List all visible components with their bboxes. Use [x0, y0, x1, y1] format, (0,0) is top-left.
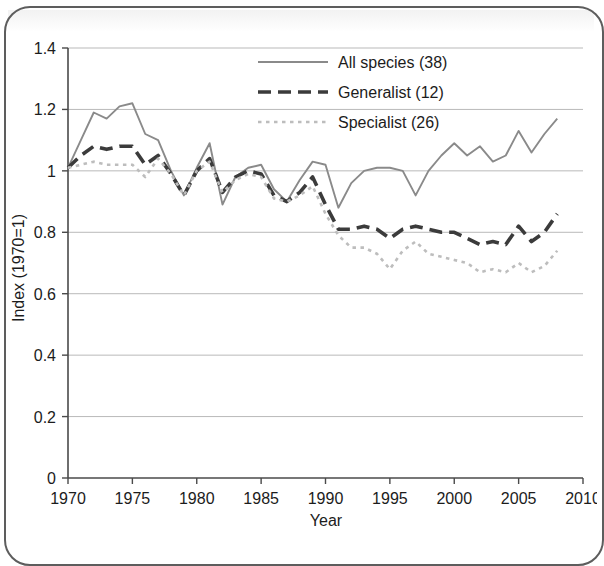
x-tick-label-1990: 1990 [308, 490, 344, 507]
x-tick-label-2000: 2000 [436, 490, 472, 507]
axes-group [62, 48, 583, 484]
x-tick-label-1980: 1980 [179, 490, 215, 507]
x-tick-label-1995: 1995 [372, 490, 408, 507]
y-tick-label-0_2: 0.2 [34, 409, 56, 426]
gridlines-group [68, 48, 583, 417]
y-tick-label-1: 1 [47, 163, 56, 180]
y-axis-title: Index (1970=1) [10, 214, 27, 322]
x-tick-label-2010: 2010 [565, 490, 597, 507]
series-group [68, 103, 557, 272]
y-tick-label-1_2: 1.2 [34, 101, 56, 118]
legend-group: All species (38)Generalist (12)Specialis… [258, 54, 447, 131]
legend-label-2: Specialist (26) [338, 114, 439, 131]
y-tick-label-0_8: 0.8 [34, 224, 56, 241]
legend-label-1: Generalist (12) [338, 84, 444, 101]
x-tick-label-1975: 1975 [115, 490, 151, 507]
y-tick-label-0_6: 0.6 [34, 286, 56, 303]
y-tick-labels-group: 00.20.40.60.811.21.4 [34, 40, 56, 487]
x-axis-title: Year [310, 512, 343, 529]
x-tick-labels-group: 197019751980198519901995200020052010 [50, 490, 597, 507]
y-tick-label-0: 0 [47, 470, 56, 487]
x-tick-label-1970: 1970 [50, 490, 86, 507]
y-tick-label-1_4: 1.4 [34, 40, 56, 57]
series-line-0 [68, 103, 557, 207]
y-tick-label-0_4: 0.4 [34, 347, 56, 364]
x-tick-label-1985: 1985 [243, 490, 279, 507]
x-tick-label-2005: 2005 [501, 490, 537, 507]
legend-label-0: All species (38) [338, 54, 447, 71]
